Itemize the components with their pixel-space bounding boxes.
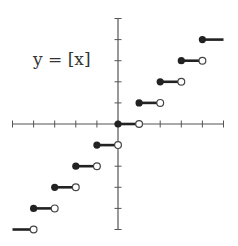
open-endpoint bbox=[30, 226, 37, 233]
closed-endpoint bbox=[114, 120, 121, 127]
open-endpoint bbox=[199, 57, 206, 64]
open-endpoint bbox=[51, 205, 58, 212]
open-endpoint bbox=[157, 100, 164, 107]
closed-endpoint bbox=[30, 205, 37, 212]
open-endpoint bbox=[136, 121, 143, 128]
closed-endpoint bbox=[136, 99, 143, 106]
closed-endpoint bbox=[93, 142, 100, 149]
closed-endpoint bbox=[178, 57, 185, 64]
open-endpoint bbox=[94, 163, 101, 170]
open-endpoint bbox=[178, 78, 185, 85]
closed-endpoint bbox=[157, 78, 164, 85]
open-endpoint bbox=[72, 184, 79, 191]
closed-endpoint bbox=[72, 163, 79, 170]
closed-endpoint bbox=[199, 36, 206, 43]
chart-title: y = [x] bbox=[32, 49, 91, 69]
closed-endpoint bbox=[51, 184, 58, 191]
open-endpoint bbox=[115, 142, 122, 149]
floor-function-chart: y = [x] bbox=[0, 0, 238, 246]
